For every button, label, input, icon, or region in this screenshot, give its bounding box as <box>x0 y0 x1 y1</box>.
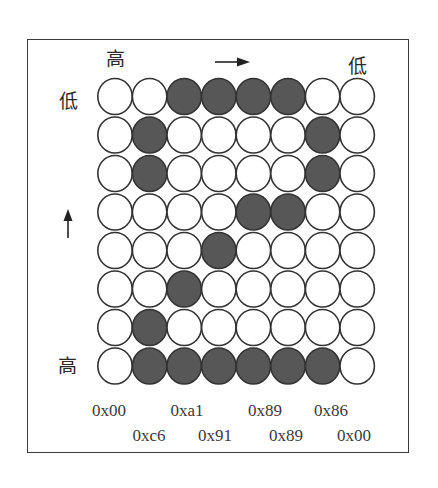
dot-empty <box>305 310 339 346</box>
hex-label-col8: 0x00 <box>337 427 371 445</box>
hex-label-col7: 0x86 <box>314 402 348 420</box>
hex-label-col2: 0xc6 <box>132 427 165 445</box>
dot-empty <box>305 79 339 115</box>
dot-empty <box>271 271 305 307</box>
dot-empty <box>132 233 166 269</box>
dot-empty <box>98 79 132 115</box>
dot-empty <box>340 348 374 384</box>
dot-filled <box>271 194 305 230</box>
dot-filled <box>271 348 305 384</box>
dot-empty <box>132 271 166 307</box>
dot-empty <box>202 156 236 192</box>
dot-empty <box>167 194 201 230</box>
dot-empty <box>340 117 374 153</box>
dot-filled <box>236 348 270 384</box>
dot-empty <box>236 271 270 307</box>
dot-empty <box>132 79 166 115</box>
dot-filled <box>236 79 270 115</box>
hex-label-col6: 0x89 <box>269 427 303 445</box>
dot-filled <box>271 79 305 115</box>
hex-label-col5: 0x89 <box>248 402 282 420</box>
dot-empty <box>271 233 305 269</box>
hex-label-col1: 0x00 <box>92 402 126 420</box>
dot-empty <box>340 194 374 230</box>
dot-empty <box>98 156 132 192</box>
dot-empty <box>202 271 236 307</box>
dot-filled <box>305 348 339 384</box>
dot-filled <box>132 310 166 346</box>
hex-label-col3: 0xa1 <box>170 402 203 420</box>
dot-empty <box>305 233 339 269</box>
dot-empty <box>132 194 166 230</box>
dot-empty <box>271 156 305 192</box>
dot-filled <box>132 117 166 153</box>
dot-filled <box>305 117 339 153</box>
dot-empty <box>167 156 201 192</box>
dot-filled <box>305 156 339 192</box>
dot-empty <box>236 233 270 269</box>
dot-empty <box>98 271 132 307</box>
dot-matrix-grid <box>0 0 438 488</box>
dot-empty <box>236 310 270 346</box>
dot-empty <box>167 310 201 346</box>
dot-empty <box>305 194 339 230</box>
dot-empty <box>167 117 201 153</box>
dot-empty <box>167 233 201 269</box>
dot-empty <box>236 156 270 192</box>
dot-empty <box>340 79 374 115</box>
dot-filled <box>132 156 166 192</box>
dot-filled <box>132 348 166 384</box>
dot-empty <box>340 156 374 192</box>
dot-filled <box>167 348 201 384</box>
dot-filled <box>236 194 270 230</box>
dot-filled <box>202 79 236 115</box>
dot-empty <box>98 233 132 269</box>
dot-filled <box>167 271 201 307</box>
dot-filled <box>167 79 201 115</box>
hex-label-col4: 0x91 <box>198 427 232 445</box>
dot-empty <box>271 310 305 346</box>
dot-filled <box>202 233 236 269</box>
dot-empty <box>202 310 236 346</box>
dot-filled <box>202 348 236 384</box>
dot-empty <box>98 117 132 153</box>
dot-empty <box>340 310 374 346</box>
dot-empty <box>202 117 236 153</box>
dot-empty <box>98 348 132 384</box>
dot-empty <box>202 194 236 230</box>
dot-empty <box>305 271 339 307</box>
dot-empty <box>236 117 270 153</box>
dot-empty <box>340 233 374 269</box>
dot-empty <box>340 271 374 307</box>
dot-empty <box>98 310 132 346</box>
dot-empty <box>271 117 305 153</box>
dot-empty <box>98 194 132 230</box>
